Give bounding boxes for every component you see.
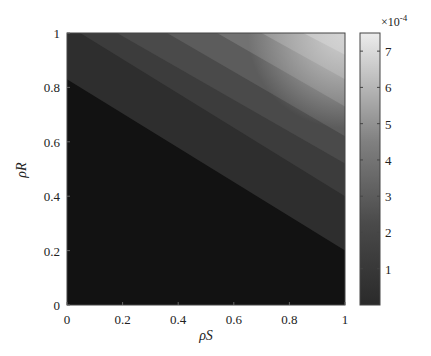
- colorbar-multiplier: ×10-4: [381, 13, 408, 29]
- colorbar-tick-label: 1: [385, 262, 392, 277]
- highlight-corner: [67, 33, 345, 305]
- colorbar-tick-label: 4: [385, 153, 392, 168]
- y-tick-label: 0.6: [44, 135, 61, 150]
- colorbar-tick-label: 3: [385, 189, 392, 204]
- y-axis-ticks: 00.20.40.60.81: [44, 26, 70, 313]
- x-tick-label: 0.2: [114, 312, 130, 327]
- colorbar-tick-label: 7: [385, 44, 392, 59]
- colorbar: 1234567 ×10-4: [360, 13, 408, 305]
- x-tick-label: 0.6: [226, 312, 243, 327]
- plot-area: [39, 0, 373, 305]
- y-tick-label: 0: [54, 298, 61, 313]
- y-tick-label: 0.2: [44, 244, 60, 259]
- y-tick-label: 1: [54, 26, 61, 41]
- colorbar-tick-label: 2: [385, 225, 392, 240]
- colorbar-tick-label: 6: [385, 80, 392, 95]
- x-tick-label: 0.8: [281, 312, 297, 327]
- contour-chart: 00.20.40.60.81 00.20.40.60.81 ρS ρR 1234…: [0, 0, 431, 356]
- x-tick-label: 0: [64, 312, 71, 327]
- y-tick-label: 0.8: [44, 80, 60, 95]
- y-axis-label: ρR: [14, 162, 29, 179]
- colorbar-gradient: [360, 33, 380, 305]
- colorbar-tick-label: 5: [385, 117, 392, 132]
- y-tick-label: 0.4: [44, 189, 61, 204]
- x-tick-label: 1: [342, 312, 349, 327]
- x-axis-label: ρS: [198, 328, 213, 343]
- x-axis-ticks: 00.20.40.60.81: [64, 302, 349, 327]
- x-tick-label: 0.4: [170, 312, 187, 327]
- contour-bands: [39, 0, 373, 305]
